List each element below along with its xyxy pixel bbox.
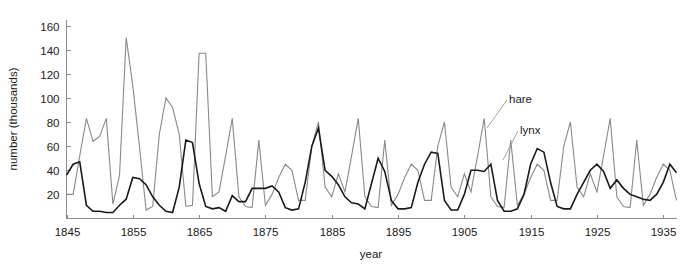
x-axis-title: year (360, 248, 383, 260)
x-tick-label: 1865 (187, 226, 213, 238)
x-tick-label: 1895 (386, 226, 412, 238)
x-tick-label: 1885 (320, 226, 346, 238)
y-tick-label: 100 (40, 93, 59, 105)
y-tick-label: 120 (40, 69, 59, 81)
y-tick-label: 20 (47, 189, 60, 201)
y-axis-title: number (thousands) (7, 67, 19, 170)
x-tick-label: 1925 (585, 226, 611, 238)
y-tick-label: 60 (47, 141, 60, 153)
series-label-hare: hare (509, 93, 532, 105)
x-tick-label: 1935 (651, 226, 677, 238)
x-tick-label: 1845 (55, 226, 81, 238)
x-tick-label: 1875 (253, 226, 279, 238)
y-tick-label: 140 (40, 45, 59, 57)
series-label-lynx: lynx (520, 124, 541, 136)
x-tick-label: 1905 (452, 226, 478, 238)
x-tick-label: 1915 (519, 226, 545, 238)
y-tick-label: 80 (47, 117, 60, 129)
x-tick-label: 1855 (121, 226, 147, 238)
y-tick-label: 160 (40, 21, 59, 33)
y-tick-label: 40 (47, 165, 60, 177)
chart-canvas: 20406080100120140160 1845185518651875188… (0, 0, 682, 268)
population-line-chart: 20406080100120140160 1845185518651875188… (0, 0, 682, 268)
